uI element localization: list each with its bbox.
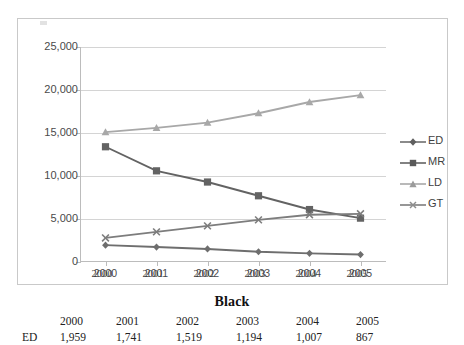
series-gt <box>102 210 364 241</box>
series-line <box>106 214 361 238</box>
y-tick-label: 20,000 <box>16 84 78 95</box>
triangle-marker-icon <box>400 176 426 188</box>
data-point-marker <box>102 242 109 249</box>
table-col-header: 2005 <box>356 314 379 328</box>
data-point-marker <box>255 248 262 255</box>
table-cell: 1,741 <box>116 330 142 344</box>
table-col-header: 2000 <box>60 314 83 328</box>
square-marker-icon <box>400 155 426 167</box>
data-point-marker <box>153 243 160 250</box>
legend-item-gt[interactable]: GT <box>400 192 462 213</box>
series-layer <box>80 47 386 262</box>
table-cell: 1,519 <box>176 330 202 344</box>
table-cell: 1,959 <box>60 330 86 344</box>
data-point-marker <box>153 167 160 174</box>
data-point-marker <box>204 178 211 185</box>
strip-year-label: 2004 <box>296 268 317 280</box>
y-tick-label: 15,000 <box>16 127 78 138</box>
table-row: ED 1,9591,7411,5191,1941,007867 <box>0 330 464 345</box>
strip-year-label: 2001 <box>143 268 164 280</box>
legend-label-mr: MR <box>426 155 445 167</box>
data-point-marker <box>102 143 109 150</box>
data-point-marker <box>204 245 211 252</box>
series-line <box>106 147 361 218</box>
axis-years-strip: 200020012002200320042005 <box>18 268 449 282</box>
chart-frame: 05,00010,00015,00020,00025,000 200020012… <box>17 18 448 285</box>
y-tick-label: 5,000 <box>16 213 78 224</box>
y-tick-label: 0 <box>16 256 78 267</box>
strip-year-label: 2005 <box>347 268 368 280</box>
table-cell: 867 <box>356 330 373 344</box>
series-ed <box>102 242 364 259</box>
table-col-header: 2002 <box>176 314 199 328</box>
data-point-marker <box>255 192 262 199</box>
diamond-marker-icon <box>400 134 426 146</box>
series-line <box>106 245 361 254</box>
legend-item-ed[interactable]: ED <box>400 129 462 150</box>
strip-year-label: 2000 <box>92 268 113 280</box>
plot-area: 05,00010,00015,00020,00025,000 200020012… <box>80 47 386 262</box>
y-tick-label: 25,000 <box>16 41 78 52</box>
legend-label-ld: LD <box>426 176 442 188</box>
table-col-header: 2003 <box>236 314 259 328</box>
legend: ED MR LD <box>400 129 462 213</box>
y-tick-label: 10,000 <box>16 170 78 181</box>
series-mr <box>102 143 364 222</box>
table-col-header: 2004 <box>296 314 319 328</box>
table-cell: 1,007 <box>296 330 322 344</box>
page-title: Black <box>0 294 464 310</box>
data-point-marker <box>357 251 364 258</box>
data-point-marker <box>306 250 313 257</box>
series-line <box>106 95 361 132</box>
table-col-header: 2001 <box>116 314 139 328</box>
strip-year-label: 2002 <box>194 268 215 280</box>
cross-marker-icon <box>400 197 426 209</box>
table-row-label-ed: ED <box>22 330 37 344</box>
legend-label-ed: ED <box>426 134 443 146</box>
strip-year-label: 2003 <box>245 268 266 280</box>
legend-label-gt: GT <box>426 197 443 209</box>
bottom-table-block: Black 200020012002200320042005 ED 1,9591… <box>0 285 464 345</box>
scan-artifact-speck <box>40 21 47 25</box>
table-header-row: 200020012002200320042005 <box>0 314 464 329</box>
legend-item-ld[interactable]: LD <box>400 171 462 192</box>
series-ld <box>102 91 365 135</box>
table-cell: 1,194 <box>236 330 262 344</box>
legend-item-mr[interactable]: MR <box>400 150 462 171</box>
